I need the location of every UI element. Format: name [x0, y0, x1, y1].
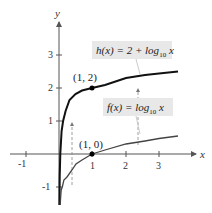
y-tick-label: -1 [42, 181, 50, 192]
y-tick-label: 3 [48, 49, 53, 60]
x-tick-label: -1 [18, 158, 26, 169]
point-label-1-2: (1, 2) [73, 71, 97, 84]
x-tick-label: 3 [156, 160, 161, 171]
x-tick-label: 2 [123, 160, 128, 171]
x-axis-label: x [199, 148, 205, 160]
point-1-0 [90, 152, 95, 157]
point-1-2 [90, 86, 95, 91]
log-shift-chart: -1 1 2 3 3 2 1 -1 x y (1, 2) (1, 0) h(x)… [0, 0, 212, 213]
y-tick-label: 2 [48, 82, 53, 93]
point-label-1-0: (1, 0) [79, 138, 103, 151]
x-tick-label: 1 [90, 160, 95, 171]
y-tick-label: 1 [48, 115, 53, 126]
y-axis-label: y [54, 7, 60, 19]
